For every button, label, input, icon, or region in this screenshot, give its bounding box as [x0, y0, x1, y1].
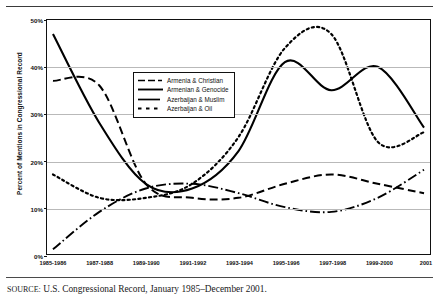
y-axis-tick-label: 0% — [34, 253, 43, 260]
line-chart: Percent of Mentions in Congressional Rec… — [0, 12, 439, 270]
x-axis-tick-label: 1985-1986 — [40, 260, 67, 266]
x-axis-tick-label: 1993-1994 — [226, 260, 253, 266]
y-axis-tick-mark — [44, 114, 47, 115]
y-axis-tick-label: 20% — [31, 158, 43, 165]
legend-item[interactable]: Armenia & Christian — [137, 76, 229, 86]
x-axis-tick-label: 2001 — [420, 260, 432, 266]
x-axis-tick-label: 1989-1990 — [133, 260, 160, 266]
y-axis-tick-label: 40% — [31, 64, 43, 71]
legend-label: Armenia & Christian — [167, 77, 223, 84]
legend-item[interactable]: Armenian & Genocide — [137, 85, 229, 95]
series-line — [53, 34, 424, 192]
y-axis-tick-mark — [44, 208, 47, 209]
legend-swatch-dashed-icon — [137, 76, 163, 85]
figure-top-rule — [6, 6, 433, 7]
legend-swatch-dashdot-icon — [137, 95, 163, 104]
x-axis-tick-label: 1987-1988 — [86, 260, 113, 266]
source-note: SOURCE: U.S. Congressional Record, Janua… — [7, 284, 267, 294]
legend-label: Armenian & Genocide — [167, 86, 229, 93]
gridline — [47, 114, 430, 115]
legend-item[interactable]: Azerbaijan & Muslim — [137, 95, 229, 105]
x-axis-tick-label: 1991-1992 — [179, 260, 206, 266]
legend-label: Azerbaijan & Muslim — [167, 96, 224, 103]
plot-area: 0%10%20%30%40%50%1985-19861987-19881989-… — [46, 19, 431, 255]
y-axis-tick-mark — [44, 161, 47, 162]
chart-legend: Armenia & Christian Armenian & Genocide … — [133, 72, 235, 118]
source-text: U.S. Congressional Record, January 1985–… — [41, 284, 267, 294]
y-axis-title: Percent of Mentions in Congressional Rec… — [16, 9, 23, 239]
y-axis-tick-mark — [44, 256, 47, 257]
legend-swatch-solid-icon — [137, 85, 163, 94]
figure-bottom-rule — [6, 277, 433, 278]
source-prefix: SOURCE: — [7, 285, 41, 294]
y-axis-tick-label: 10% — [31, 205, 43, 212]
y-axis-tick-label: 30% — [31, 111, 43, 118]
y-axis-tick-label: 50% — [31, 17, 43, 24]
gridline — [47, 67, 430, 68]
legend-swatch-dotted-icon — [137, 104, 163, 113]
gridline — [47, 209, 430, 210]
legend-item[interactable]: Azerbaijan & Oil — [137, 104, 229, 114]
cut-off-caption-above — [6, 0, 433, 5]
y-axis-tick-mark — [44, 67, 47, 68]
x-axis-tick-label: 1995-1996 — [273, 260, 300, 266]
x-axis-tick-label: 1997-1998 — [319, 260, 346, 266]
gridline — [47, 162, 430, 163]
y-axis-tick-mark — [44, 20, 47, 21]
figure-container: Percent of Mentions in Congressional Rec… — [0, 0, 439, 306]
legend-label: Azerbaijan & Oil — [167, 105, 212, 112]
x-axis-tick-label: 1999-2000 — [366, 260, 393, 266]
series-layer — [47, 20, 430, 254]
